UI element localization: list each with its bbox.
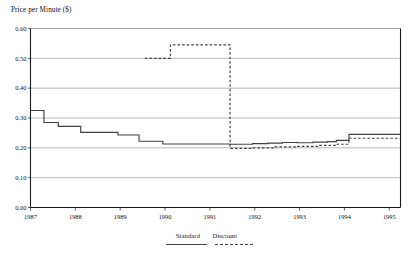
svg-text:0.20: 0.20	[15, 144, 26, 151]
svg-text:0.00: 0.00	[15, 204, 26, 211]
data-series	[31, 45, 401, 149]
legend-line-samples	[0, 242, 413, 247]
legend-sample-standard-line	[166, 244, 207, 245]
legend-label-discount: Discount	[213, 232, 238, 239]
svg-text:0.40: 0.40	[15, 84, 26, 91]
svg-text:0.30: 0.30	[15, 114, 26, 121]
legend-labels: Standard Discount	[0, 232, 413, 239]
svg-text:1995: 1995	[383, 213, 396, 220]
y-axis-ticks: 0.000.100.200.300.400.500.60	[15, 25, 30, 211]
svg-text:1988: 1988	[69, 213, 82, 220]
svg-text:1990: 1990	[159, 213, 172, 220]
svg-text:0.60: 0.60	[15, 25, 26, 32]
legend-label-standard: Standard	[176, 232, 200, 239]
chart-legend: Standard Discount	[0, 232, 413, 247]
svg-text:0.10: 0.10	[15, 174, 26, 181]
svg-text:1991: 1991	[204, 213, 217, 220]
svg-text:0.50: 0.50	[15, 55, 26, 62]
svg-text:1992: 1992	[248, 213, 261, 220]
chart-plot-area: 0.000.100.200.300.400.500.60 19871988198…	[0, 0, 413, 258]
legend-sample-discount-line	[215, 244, 253, 245]
svg-text:1994: 1994	[338, 213, 352, 220]
x-axis-ticks: 198719881989199019911992199319941995	[24, 208, 396, 221]
svg-text:1993: 1993	[293, 213, 306, 220]
svg-text:1987: 1987	[24, 213, 38, 220]
gridlines	[31, 29, 401, 178]
svg-text:1989: 1989	[114, 213, 127, 220]
chart-figure: Price per Minute ($) 0.000.100.200.300.4…	[0, 0, 413, 258]
